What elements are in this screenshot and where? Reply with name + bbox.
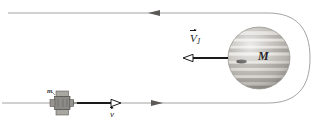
- planet-velocity-symbol: V: [190, 32, 197, 44]
- vector-overbar-icon: [190, 30, 196, 31]
- spacecraft-graphic: [50, 91, 74, 115]
- planet-velocity-label: VJ: [190, 33, 200, 45]
- planet-velocity-symbol-wrap: V: [190, 33, 197, 44]
- planet-velocity-vector: [183, 54, 228, 61]
- planet-velocity-subscript: J: [197, 37, 200, 46]
- craft-velocity-vector: [70, 99, 121, 106]
- slingshot-diagram: M m VJ v: [0, 0, 316, 125]
- outgoing-direction-arrowhead: [148, 10, 160, 16]
- incoming-direction-arrowhead: [151, 100, 163, 106]
- craft-velocity-arrowhead: [111, 99, 121, 106]
- craft-velocity-symbol: v: [110, 109, 114, 119]
- craft-velocity-symbol-wrap: v: [110, 110, 114, 119]
- vector-overbar-icon: [110, 107, 113, 108]
- planet-velocity-arrowhead: [183, 54, 193, 61]
- craft-mass-label: m: [47, 88, 52, 95]
- craft-velocity-label: v: [110, 110, 114, 119]
- planet-mass-label: M: [258, 50, 269, 62]
